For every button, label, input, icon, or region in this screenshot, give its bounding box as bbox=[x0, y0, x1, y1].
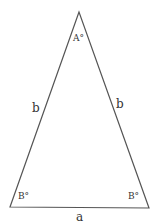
left-angle-label: B° bbox=[18, 191, 29, 201]
triangle-canvas: A° B° B° b b a bbox=[0, 0, 159, 224]
base-label: a bbox=[76, 210, 83, 224]
apex-angle-label: A° bbox=[72, 33, 84, 43]
right-side-label: b bbox=[116, 97, 124, 111]
left-side-label: b bbox=[32, 101, 40, 115]
right-angle-label: B° bbox=[128, 191, 139, 201]
triangle-diagram: A° B° B° b b a bbox=[0, 0, 159, 224]
